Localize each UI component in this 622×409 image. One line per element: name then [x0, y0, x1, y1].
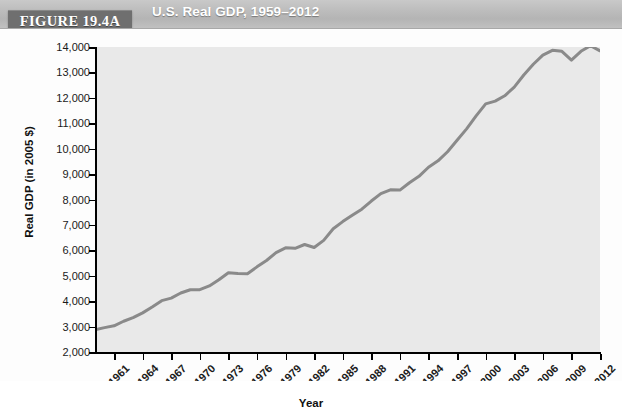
y-axis-tick-label: 3,000 [6, 321, 90, 333]
y-axis-tick-label: 12,000 [6, 92, 90, 104]
y-axis-tick-label: 10,000 [6, 143, 90, 155]
x-axis-tick [143, 354, 145, 360]
chart-container: Real GDP (in 2005 $) 2,0003,0004,0005,00… [0, 29, 622, 387]
y-axis-tick-label: 8,000 [6, 194, 90, 206]
y-axis-tick-label: 14,000 [6, 41, 90, 53]
x-axis-tick [371, 354, 373, 360]
x-axis-tick [286, 354, 288, 360]
x-axis-ticks [95, 354, 601, 362]
x-axis-tick [514, 354, 516, 360]
figure-number-label: FIGURE 19.4A [20, 13, 121, 30]
x-axis-tick [600, 354, 602, 360]
y-axis-tick-labels: 2,0003,0004,0005,0006,0007,0008,0009,000… [0, 47, 90, 353]
y-axis-tick-label: 4,000 [6, 295, 90, 307]
x-axis-title: Year [0, 397, 622, 409]
plot-inner [95, 47, 600, 352]
page-bottom-edge [0, 381, 622, 387]
x-axis-tick [428, 354, 430, 360]
y-axis-line [95, 47, 97, 353]
y-axis-tick-label: 2,000 [6, 346, 90, 358]
y-axis-tick-label: 6,000 [6, 244, 90, 256]
x-axis-tick [257, 354, 259, 360]
gdp-line-series [95, 47, 600, 352]
y-axis-tick-label: 11,000 [6, 117, 90, 129]
x-axis-tick [571, 354, 573, 360]
x-axis-tick [543, 354, 545, 360]
x-axis-tick [171, 354, 173, 360]
y-axis-tick-label: 9,000 [6, 168, 90, 180]
x-axis-tick [343, 354, 345, 360]
x-axis-tick [114, 354, 116, 360]
gdp-line-path [95, 47, 600, 330]
x-axis-tick [486, 354, 488, 360]
figure-header-band: FIGURE 19.4A U.S. Real GDP, 1959–2012 [0, 0, 622, 29]
y-axis-tick-label: 7,000 [6, 219, 90, 231]
plot-area [95, 47, 600, 352]
x-axis-tick [200, 354, 202, 360]
x-axis-tick [314, 354, 316, 360]
x-axis-tick [228, 354, 230, 360]
y-axis-tick-label: 5,000 [6, 270, 90, 282]
x-axis-tick [400, 354, 402, 360]
x-axis-tick [457, 354, 459, 360]
y-axis-tick-label: 13,000 [6, 66, 90, 78]
figure-title: U.S. Real GDP, 1959–2012 [152, 4, 319, 19]
